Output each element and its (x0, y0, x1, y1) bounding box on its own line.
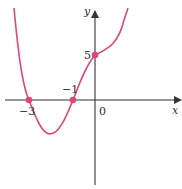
tick-label-zero: 0 (99, 106, 106, 117)
point-zero-five (92, 52, 99, 59)
chart-canvas (0, 0, 182, 189)
x-axis-label: x (172, 105, 178, 116)
point-neg3-zero (26, 97, 33, 104)
tick-label-five: 5 (84, 50, 91, 61)
point-neg1-zero (70, 97, 77, 104)
y-axis-label: y (84, 6, 90, 17)
tick-label-neg3: −3 (19, 106, 35, 117)
tick-label-neg1: −1 (62, 84, 78, 95)
